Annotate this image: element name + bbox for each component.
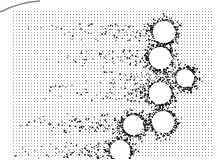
particle-overlay bbox=[0, 0, 222, 168]
particle-7 bbox=[110, 140, 130, 160]
particle-3 bbox=[176, 69, 194, 87]
particle-2 bbox=[149, 47, 171, 69]
particle-1 bbox=[153, 21, 175, 43]
particle-5 bbox=[152, 111, 174, 133]
particle-4 bbox=[149, 82, 171, 104]
particle-6 bbox=[123, 115, 143, 135]
